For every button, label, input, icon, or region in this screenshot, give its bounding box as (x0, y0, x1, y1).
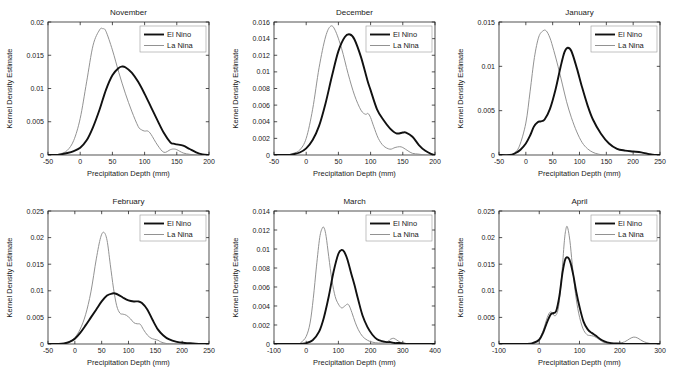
x-tick-label: -50 (43, 158, 53, 165)
y-tick-label: 0 (266, 341, 270, 348)
kde-panel-april: April-100010020030000.0050.010.0150.020.… (451, 189, 677, 378)
y-axis-title: Kernel Density Estimate (456, 49, 465, 129)
panel-title: January (566, 8, 594, 17)
legend-label-la-nina: La Nina (167, 41, 194, 50)
x-tick-label: 0 (304, 158, 308, 165)
x-tick-label: 200 (176, 347, 188, 354)
y-tick-label: 0.002 (252, 322, 270, 329)
x-tick-label: 0 (524, 158, 528, 165)
x-axis-title: Precipitation Depth (mm) (538, 169, 621, 178)
y-tick-label: 0.005 (27, 118, 45, 125)
y-tick-label: 0 (491, 152, 495, 159)
y-tick-label: 0.01 (30, 85, 44, 92)
legend-label-el-nino: El Nino (618, 219, 642, 228)
y-tick-label: 0.006 (252, 102, 270, 109)
y-tick-label: 0.004 (252, 303, 270, 310)
y-tick-label: 0.005 (27, 314, 45, 321)
legend-label-la-nina: La Nina (393, 230, 420, 239)
y-tick-label: 0.01 (256, 246, 270, 253)
curve-el-nino (274, 250, 435, 344)
kde-panel-january: January-5005010015020025000.0050.010.015… (451, 0, 677, 189)
y-tick-label: 0.005 (478, 107, 496, 114)
x-tick-label: 150 (397, 158, 409, 165)
x-axis-title: Precipitation Depth (mm) (313, 169, 396, 178)
x-axis-title: Precipitation Depth (mm) (538, 358, 621, 367)
x-tick-label: 50 (109, 158, 117, 165)
y-tick-label: 0.02 (30, 234, 44, 241)
y-tick-label: 0.002 (252, 135, 270, 142)
y-axis-title: Kernel Density Estimate (5, 238, 14, 318)
legend-label-la-nina: La Nina (618, 230, 645, 239)
x-tick-label: 200 (628, 158, 640, 165)
y-tick-label: 0.025 (478, 208, 496, 215)
panel-title: February (113, 197, 145, 206)
y-tick-label: 0.006 (252, 284, 270, 291)
x-tick-label: 50 (334, 158, 342, 165)
y-tick-label: 0.015 (27, 52, 45, 59)
y-tick-label: 0.015 (478, 261, 496, 268)
x-tick-label: 50 (549, 158, 557, 165)
x-tick-label: -50 (269, 158, 279, 165)
x-tick-label: 0 (73, 347, 77, 354)
kde-figure-grid: November-5005010015020000.0050.010.0150.… (0, 0, 677, 378)
x-tick-label: 100 (332, 347, 344, 354)
y-axis-title: Kernel Density Estimate (5, 49, 14, 129)
y-axis-title: Kernel Density Estimate (231, 238, 240, 318)
y-axis-title: Kernel Density Estimate (231, 49, 240, 129)
x-tick-label: -50 (43, 347, 53, 354)
y-tick-label: 0.015 (27, 261, 45, 268)
panel-title: November (110, 8, 147, 17)
panel-title: April (572, 197, 588, 206)
legend-label-el-nino: El Nino (393, 30, 417, 39)
x-tick-label: 200 (429, 158, 441, 165)
x-tick-label: 100 (123, 347, 135, 354)
y-tick-label: 0.01 (482, 63, 496, 70)
y-tick-label: 0.01 (482, 287, 496, 294)
kde-panel-march: March-100010020030040000.0020.0040.0060.… (226, 189, 452, 378)
x-tick-label: 200 (614, 347, 626, 354)
y-tick-label: 0.01 (256, 68, 270, 75)
y-tick-label: 0.014 (252, 208, 270, 215)
x-tick-label: 400 (429, 347, 441, 354)
legend-label-el-nino: El Nino (618, 30, 642, 39)
kde-panel-december: December-5005010015020000.0020.0040.0060… (226, 0, 452, 189)
y-tick-label: 0.005 (478, 314, 496, 321)
kde-panel-february: February-5005010015020025000.0050.010.01… (0, 189, 226, 378)
x-tick-label: -50 (494, 158, 504, 165)
y-tick-label: 0 (40, 341, 44, 348)
x-tick-label: 100 (364, 158, 376, 165)
x-tick-label: -100 (492, 347, 506, 354)
x-tick-label: 200 (203, 158, 215, 165)
x-tick-label: 100 (574, 158, 586, 165)
x-tick-label: 300 (654, 347, 666, 354)
legend-label-el-nino: El Nino (167, 219, 191, 228)
x-tick-label: 150 (601, 158, 613, 165)
y-tick-label: 0.012 (252, 52, 270, 59)
y-tick-label: 0.02 (482, 234, 496, 241)
x-tick-label: 0 (304, 347, 308, 354)
x-tick-label: 50 (98, 347, 106, 354)
curve-la-nina (48, 232, 209, 344)
legend-label-la-nina: La Nina (167, 230, 194, 239)
y-tick-label: 0 (266, 152, 270, 159)
x-tick-label: 250 (654, 158, 666, 165)
x-tick-label: -100 (267, 347, 281, 354)
curve-la-nina (499, 226, 660, 344)
curve-el-nino (499, 257, 660, 344)
y-tick-label: 0.004 (252, 118, 270, 125)
y-tick-label: 0.015 (478, 19, 496, 26)
x-tick-label: 0 (538, 347, 542, 354)
y-tick-label: 0.016 (252, 19, 270, 26)
y-tick-label: 0 (40, 152, 44, 159)
y-tick-label: 0.014 (252, 35, 270, 42)
legend-label-la-nina: La Nina (618, 41, 645, 50)
x-tick-label: 250 (203, 347, 215, 354)
x-tick-label: 150 (150, 347, 162, 354)
legend-label-la-nina: La Nina (393, 41, 420, 50)
y-tick-label: 0.008 (252, 85, 270, 92)
legend-label-el-nino: El Nino (167, 30, 191, 39)
kde-panel-november: November-5005010015020000.0050.010.0150.… (0, 0, 226, 189)
panel-title: March (343, 197, 365, 206)
y-tick-label: 0.02 (30, 19, 44, 26)
x-tick-label: 200 (364, 347, 376, 354)
